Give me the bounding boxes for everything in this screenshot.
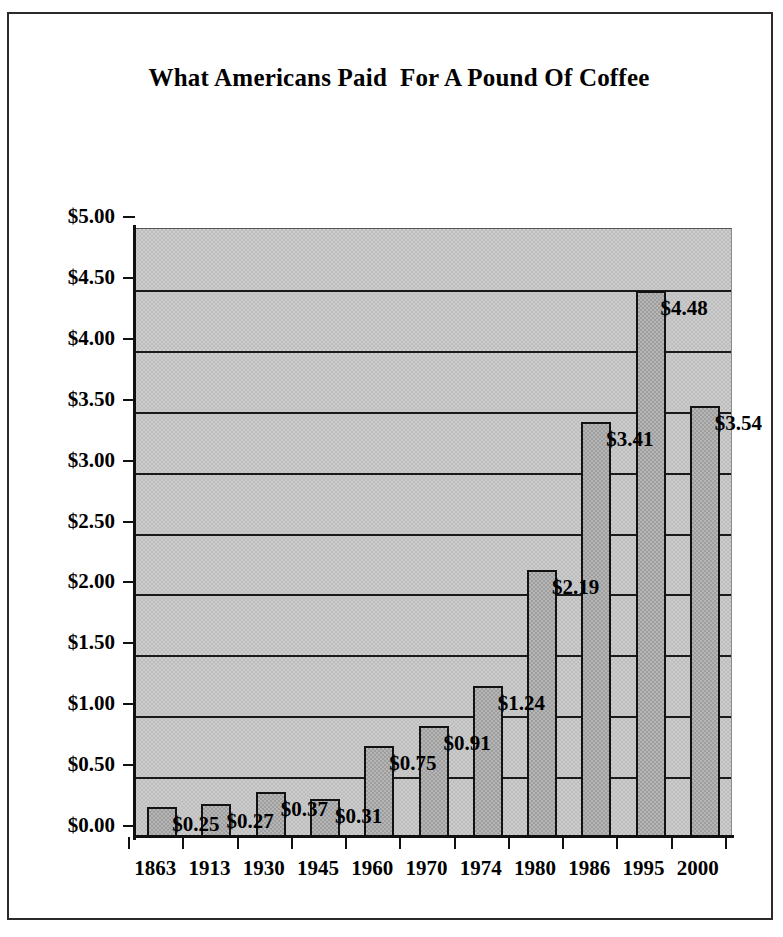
y-axis-tick-label: $3.50 [11, 386, 115, 411]
y-axis-tick-label: $5.00 [11, 204, 115, 229]
chart-title: What Americans Paid For A Pound Of Coffe… [79, 62, 719, 94]
x-tick-mark [508, 837, 510, 849]
y-axis-tick-label: $1.50 [11, 630, 115, 655]
bar-value-label-1974: $1.24 [498, 690, 545, 715]
chart-page: What Americans Paid For A Pound Of Coffe… [0, 0, 783, 937]
x-tick-mark [291, 837, 293, 849]
x-tick-mark [128, 837, 130, 849]
x-axis-tick-label: 1995 [623, 856, 665, 881]
bar-value-label-1995: $4.48 [661, 296, 708, 321]
x-tick-mark [562, 837, 564, 849]
y-axis-tick-label: $0.50 [11, 752, 115, 777]
bar-1986 [581, 422, 611, 837]
x-axis-tick-label: 1930 [243, 856, 285, 881]
x-axis-line [133, 835, 734, 838]
x-axis-tick-label: 1863 [134, 856, 176, 881]
x-tick-mark [182, 837, 184, 849]
y-axis-tick-label: $3.00 [11, 447, 115, 472]
bar-value-label-1980: $2.19 [552, 575, 599, 600]
bar-1995 [636, 291, 666, 837]
y-axis-line [133, 225, 136, 840]
bar-value-label-1945: $0.31 [335, 804, 382, 829]
bar-value-label-1970: $0.91 [444, 731, 491, 756]
bar-value-label-1986: $3.41 [606, 426, 653, 451]
x-tick-mark [345, 837, 347, 849]
x-axis-tick-label: 1945 [297, 856, 339, 881]
x-axis-tick-label: 1960 [351, 856, 393, 881]
x-tick-mark [454, 837, 456, 849]
chart-frame-border: What Americans Paid For A Pound Of Coffe… [7, 12, 773, 920]
x-tick-mark [237, 837, 239, 849]
y-axis-tick-label: $2.50 [11, 508, 115, 533]
x-axis-tick-label: 1913 [188, 856, 230, 881]
x-tick-mark [399, 837, 401, 849]
y-axis-tick-label: $2.00 [11, 569, 115, 594]
y-axis-tick-label: $4.00 [11, 325, 115, 350]
bar-value-label-1960: $0.75 [389, 750, 436, 775]
bar-2000 [690, 406, 720, 837]
x-axis-tick-label: 1974 [460, 856, 502, 881]
bar-value-label-1930: $0.37 [281, 796, 328, 821]
bar-value-label-1863: $0.25 [172, 811, 219, 836]
bar-value-label-2000: $3.54 [715, 410, 762, 435]
x-axis-tick-label: 1980 [514, 856, 556, 881]
bar-value-label-1913: $0.27 [226, 809, 273, 834]
x-tick-mark [616, 837, 618, 849]
plot-area: $0.25$0.27$0.37$0.31$0.75$0.91$1.24$2.19… [135, 228, 732, 837]
x-axis-tick-label: 2000 [677, 856, 719, 881]
x-axis-tick-label: 1986 [568, 856, 610, 881]
y-axis-tick-label: $4.50 [11, 264, 115, 289]
y-tick-mark [123, 216, 135, 218]
x-tick-mark [725, 837, 727, 849]
y-axis-tick-label: $1.00 [11, 691, 115, 716]
y-axis-tick-label: $0.00 [11, 813, 115, 838]
x-axis-tick-label: 1970 [406, 856, 448, 881]
x-tick-mark [671, 837, 673, 849]
